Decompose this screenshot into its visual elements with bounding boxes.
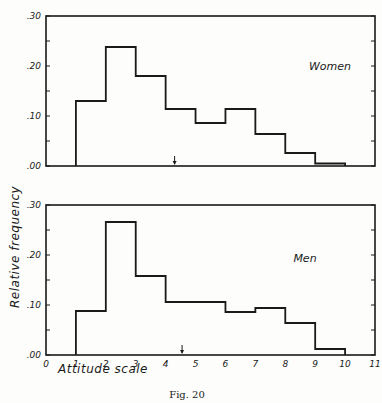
y-tick-label: .30 [27,200,42,210]
x-tick-label: 5 [193,359,199,369]
x-axis-title: Attitude scale [57,362,148,376]
y-tick-label: .00 [27,350,42,360]
x-tick-label: 4 [163,359,169,369]
chart-canvas: .00.10.20.30Women .00.10.20.30Men 012345… [0,0,382,403]
y-tick-label: .10 [27,111,42,121]
histogram-women [76,47,345,166]
panel-label-men: Men [293,252,316,265]
x-tick-label: 8 [282,359,288,369]
histogram-men [76,222,345,355]
panel-label-women: Women [309,60,351,73]
x-tick-label: 7 [252,359,258,369]
panel-men: .00.10.20.30Men [27,200,375,360]
y-tick-label: .20 [27,250,42,260]
y-tick-label: .20 [27,61,42,71]
histogram-figure: .00.10.20.30Women .00.10.20.30Men 012345… [0,0,382,403]
plot-frame [46,16,375,166]
figure-caption: Fig. 20 [169,389,205,400]
arrowhead-icon [173,161,177,165]
x-tick-label: 6 [223,359,229,369]
y-tick-label: .30 [27,11,42,21]
y-tick-label: .10 [27,300,42,310]
arrowhead-icon [180,350,184,354]
x-tick-label: 9 [312,359,318,369]
y-axis-title: Relative frequency [8,185,22,308]
x-tick-label: 0 [43,359,49,369]
y-tick-label: .00 [27,161,42,171]
x-tick-label: 10 [339,359,351,369]
x-tick-label: 11 [369,359,380,369]
panel-women: .00.10.20.30Women [27,11,375,171]
plot-frame [46,205,375,355]
